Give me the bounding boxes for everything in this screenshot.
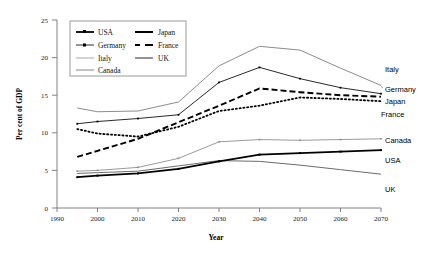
leader-lines <box>381 87 383 88</box>
line-chart: 0 5 10 15 20 25 1990 2000 2010 2020 2030… <box>0 0 422 266</box>
series-marker <box>137 172 139 174</box>
x-tick-label-2070: 2070 <box>374 215 389 223</box>
series-marker <box>218 82 220 84</box>
legend-label-canada: Canada <box>98 66 121 75</box>
series-marker <box>259 66 261 68</box>
legend: USA Japan Germany France Italy <box>70 21 186 76</box>
x-tick-label-2020: 2020 <box>172 215 187 223</box>
series-marker <box>76 176 78 178</box>
series-marker <box>299 140 301 142</box>
legend-label-usa: USA <box>98 28 114 37</box>
series-marker <box>299 78 301 80</box>
series-marker <box>218 160 220 162</box>
series-marker <box>340 87 342 89</box>
series-label-japan: Japan <box>385 97 405 106</box>
legend-label-italy: Italy <box>98 54 112 63</box>
series-label-france: France <box>381 110 404 119</box>
chart-container: 0 5 10 15 20 25 1990 2000 2010 2020 2030… <box>0 0 422 266</box>
series-marker <box>178 158 180 160</box>
series-marker <box>137 118 139 120</box>
legend-label-france: France <box>158 41 179 50</box>
series-marker <box>218 141 220 143</box>
x-tick-label-2050: 2050 <box>293 215 308 223</box>
series-marker <box>137 167 139 169</box>
legend-label-japan: Japan <box>158 28 175 37</box>
series-marker <box>76 170 78 172</box>
x-tick-label-2010: 2010 <box>131 215 146 223</box>
series-label-canada: Canada <box>385 136 412 145</box>
x-tick-label-1990: 1990 <box>50 215 65 223</box>
series-marker <box>259 139 261 141</box>
series-marker <box>97 170 99 172</box>
series-marker <box>299 152 301 154</box>
series-marker <box>340 139 342 141</box>
series-marker <box>380 138 382 140</box>
y-tick-label-15: 15 <box>41 92 49 100</box>
x-tick-label-2000: 2000 <box>91 215 106 223</box>
y-tick-label-10: 10 <box>41 129 49 137</box>
series-markers <box>76 66 382 178</box>
series-marker <box>97 121 99 123</box>
x-tick-label-2060: 2060 <box>334 215 349 223</box>
series-line-uk <box>77 161 381 175</box>
legend-label-germany: Germany <box>98 41 126 50</box>
x-axis-title: Year <box>209 233 225 242</box>
x-axis-ticks: 1990 2000 2010 2020 2030 2040 2050 2060 … <box>50 208 389 223</box>
series-label-italy: Italy <box>385 65 399 74</box>
x-tick-label-2040: 2040 <box>253 215 268 223</box>
y-tick-label-0: 0 <box>45 205 49 213</box>
series-marker <box>178 114 180 116</box>
series-marker <box>380 149 382 151</box>
series-marker <box>259 154 261 156</box>
y-tick-label-5: 5 <box>45 167 49 175</box>
y-tick-label-25: 25 <box>41 17 49 25</box>
series-marker <box>340 151 342 153</box>
y-axis-title: Per cent of GDP <box>15 88 24 141</box>
series-label-uk: UK <box>385 185 395 194</box>
series-line-usa <box>77 150 381 177</box>
series-end-labels: Italy Germany Japan France Canada USA UK <box>381 65 416 194</box>
series-label-germany: Germany <box>385 85 416 94</box>
series-label-usa: USA <box>385 156 400 165</box>
series-marker <box>97 175 99 177</box>
y-axis-ticks: 0 5 10 15 20 25 <box>41 17 57 213</box>
series-marker <box>380 93 382 95</box>
y-tick-label-20: 20 <box>41 54 49 62</box>
series-line-france <box>77 97 381 136</box>
series-marker <box>178 168 180 170</box>
x-tick-label-2030: 2030 <box>212 215 227 223</box>
legend-label-uk: UK <box>158 54 169 63</box>
series-marker <box>76 123 78 125</box>
